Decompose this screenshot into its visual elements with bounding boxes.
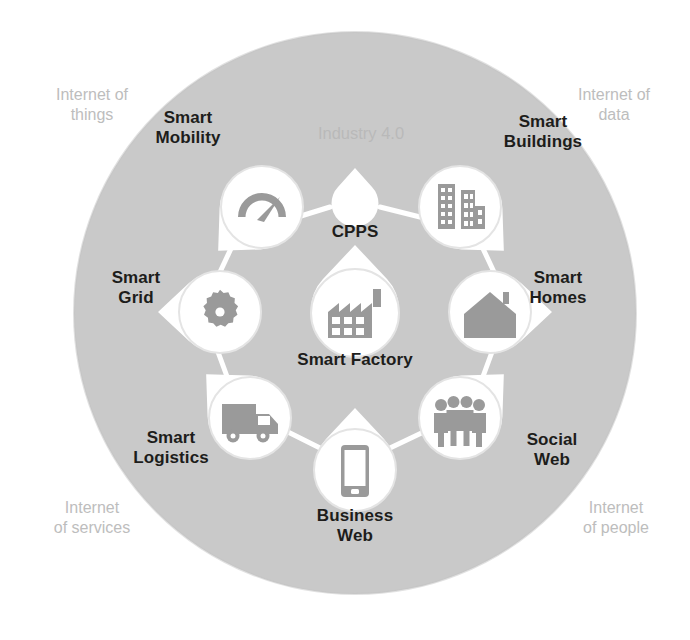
smartphone-icon <box>341 445 369 497</box>
diagram-stage: Industry 4.0 Internet of things Internet… <box>0 0 690 640</box>
industry-40-diagram <box>0 0 690 640</box>
